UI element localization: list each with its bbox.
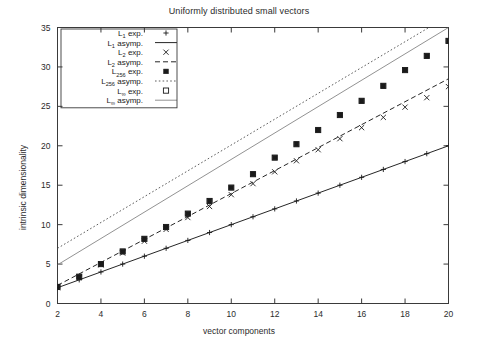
marker-filled-square bbox=[77, 274, 82, 279]
marker-cross bbox=[402, 105, 407, 110]
marker-plus bbox=[163, 30, 168, 35]
marker-filled-square bbox=[338, 113, 343, 118]
marker-filled-square bbox=[164, 69, 169, 74]
y-tick-label: 30 bbox=[41, 62, 51, 72]
marker-filled-square bbox=[207, 199, 212, 204]
series-2 bbox=[55, 84, 451, 290]
legend-label-7: L∞ asymp. bbox=[107, 96, 143, 106]
plot-area: 051015202530352468101214161820 L1 exp.L1… bbox=[0, 0, 478, 346]
marker-filled-square bbox=[186, 211, 191, 216]
marker-filled-square bbox=[403, 68, 408, 73]
axes-layer: 051015202530352468101214161820 bbox=[41, 23, 453, 319]
legend-layer: L1 exp.L1 asymp.L2 exp.L2 asymp.L256 exp… bbox=[61, 29, 177, 108]
series-1 bbox=[58, 146, 449, 288]
marker-filled-square bbox=[424, 54, 429, 59]
marker-filled-square bbox=[446, 39, 451, 44]
marker-filled-square bbox=[120, 249, 125, 254]
marker-cross bbox=[424, 95, 429, 100]
y-tick-label: 10 bbox=[41, 220, 51, 230]
y-tick-label: 0 bbox=[46, 299, 51, 309]
x-tick-label: 16 bbox=[357, 309, 367, 319]
y-tick-label: 5 bbox=[46, 259, 51, 269]
x-tick-label: 14 bbox=[313, 309, 323, 319]
marker-cross bbox=[337, 136, 342, 141]
marker-filled-square bbox=[229, 185, 234, 190]
marker-filled-square bbox=[316, 128, 321, 133]
marker-filled-square bbox=[251, 172, 256, 177]
series-5 bbox=[58, 28, 429, 249]
marker-cross bbox=[163, 50, 168, 55]
marker-filled-square bbox=[272, 155, 277, 160]
series-line bbox=[58, 28, 429, 249]
x-tick-label: 6 bbox=[142, 309, 147, 319]
y-tick-label: 20 bbox=[41, 141, 51, 151]
series-line bbox=[58, 146, 449, 288]
marker-filled-square bbox=[99, 262, 104, 267]
marker-cross bbox=[250, 181, 255, 186]
marker-cross bbox=[359, 125, 364, 130]
series-3 bbox=[58, 79, 449, 286]
marker-filled-square bbox=[142, 237, 147, 242]
x-tick-label: 18 bbox=[400, 309, 410, 319]
series-line bbox=[58, 79, 449, 286]
marker-filled-square bbox=[55, 285, 60, 290]
x-tick-label: 20 bbox=[444, 309, 454, 319]
y-tick-label: 15 bbox=[41, 180, 51, 190]
x-tick-label: 4 bbox=[99, 309, 104, 319]
chart-root: Uniformly distributed small vectors intr… bbox=[0, 0, 478, 346]
x-tick-label: 8 bbox=[185, 309, 190, 319]
y-tick-label: 35 bbox=[41, 23, 51, 33]
marker-cross bbox=[316, 147, 321, 152]
x-tick-label: 12 bbox=[270, 309, 280, 319]
marker-filled-square bbox=[164, 225, 169, 230]
marker-open-square bbox=[163, 88, 168, 93]
marker-plus bbox=[446, 143, 451, 148]
marker-cross bbox=[381, 115, 386, 120]
marker-filled-square bbox=[359, 99, 364, 104]
y-tick-label: 25 bbox=[41, 101, 51, 111]
marker-cross bbox=[294, 158, 299, 163]
marker-filled-square bbox=[381, 84, 386, 89]
x-tick-label: 10 bbox=[227, 309, 237, 319]
x-tick-label: 2 bbox=[55, 309, 60, 319]
marker-filled-square bbox=[294, 142, 299, 147]
